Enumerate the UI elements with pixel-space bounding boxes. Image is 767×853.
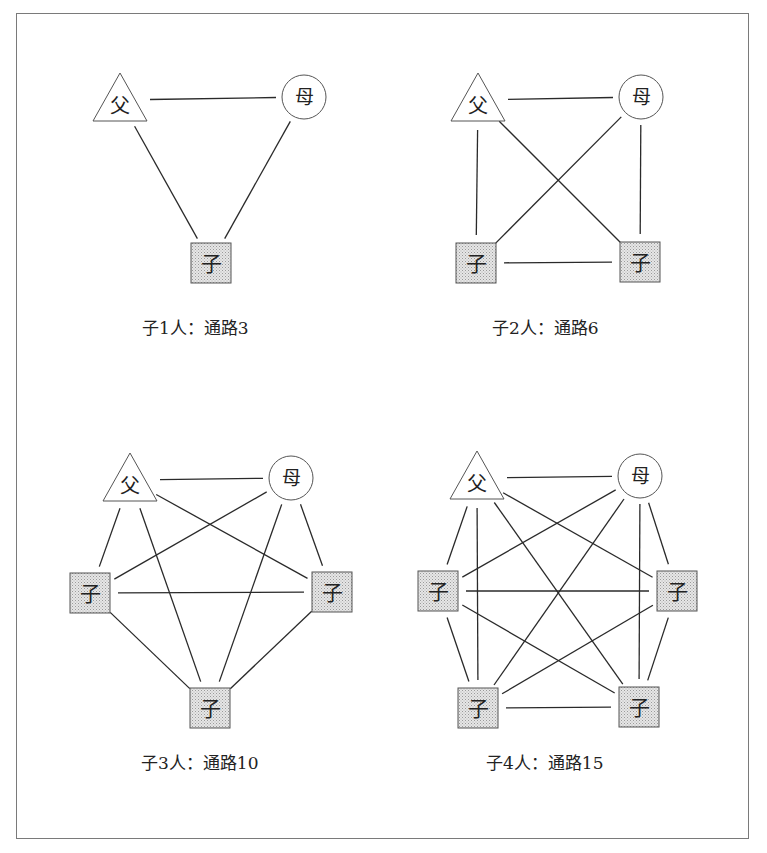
- communication-path: [502, 605, 653, 694]
- mother-label: 母: [295, 86, 314, 108]
- child-label: 子: [201, 252, 222, 276]
- communication-path: [150, 98, 276, 100]
- panel-4-edges: [447, 476, 668, 708]
- communication-paths: [99, 98, 668, 708]
- communication-path: [508, 98, 613, 100]
- communication-path: [462, 490, 615, 577]
- communication-path: [230, 611, 311, 688]
- panel-3-nodes: 父母子子子: [70, 453, 352, 728]
- child-label: 子: [200, 697, 221, 721]
- panel-1-edges: [135, 98, 291, 239]
- panel-caption: 子3人：通路10: [141, 749, 258, 774]
- communication-path: [160, 478, 263, 479]
- father-label: 父: [467, 472, 487, 496]
- mother-label: 母: [631, 465, 650, 487]
- communication-path: [648, 618, 669, 681]
- child-label: 子: [322, 581, 343, 605]
- panel-caption: 子2人：通路6: [492, 314, 599, 339]
- communication-path: [462, 605, 614, 693]
- communication-path: [114, 492, 266, 579]
- child-label: 子: [667, 580, 688, 604]
- family-members: 父母子父母子子父母子子子父母子子子子: [70, 73, 697, 728]
- panel-3-edges: [99, 478, 322, 688]
- communication-path: [447, 506, 467, 564]
- mother-label: 母: [632, 86, 651, 108]
- father-label: 父: [110, 94, 130, 118]
- child-label: 子: [468, 697, 489, 721]
- communication-path: [156, 495, 307, 579]
- communication-path: [301, 504, 323, 565]
- communication-path: [507, 476, 612, 477]
- communication-path: [499, 121, 620, 242]
- child-label: 子: [466, 252, 487, 276]
- family-communication-diagram: 父母子父母子子父母子子子父母子子子子: [0, 0, 767, 853]
- panel-4-nodes: 父母子子子子: [418, 451, 697, 728]
- communication-path: [506, 707, 611, 708]
- child-label: 子: [80, 582, 101, 606]
- communication-path: [494, 499, 624, 685]
- panel-1-nodes: 父母子: [93, 73, 326, 283]
- communication-path: [225, 121, 291, 238]
- panel-caption: 子1人：通路3: [142, 314, 249, 339]
- communication-path: [649, 503, 669, 565]
- panel-2-nodes: 父母子子: [451, 73, 663, 283]
- communication-path: [118, 592, 304, 593]
- mother-label: 母: [282, 467, 301, 489]
- communication-path: [477, 508, 478, 680]
- panel-caption: 子4人：通路15: [486, 749, 603, 774]
- communication-path: [110, 612, 190, 688]
- father-label: 父: [120, 474, 140, 498]
- child-label: 子: [428, 580, 449, 604]
- communication-path: [447, 618, 469, 682]
- communication-path: [504, 262, 612, 263]
- child-label: 子: [629, 696, 650, 720]
- communication-path: [99, 508, 120, 566]
- communication-path: [476, 130, 477, 235]
- communication-path: [640, 125, 641, 234]
- father-label: 父: [468, 94, 488, 118]
- panel-2-edges: [476, 98, 641, 263]
- communication-path: [135, 126, 198, 238]
- child-label: 子: [630, 251, 651, 275]
